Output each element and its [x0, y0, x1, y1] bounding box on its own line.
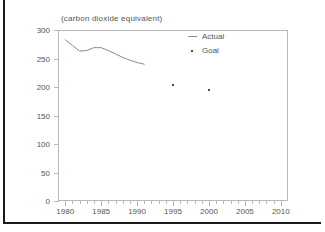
- x-axis-major-tick: [101, 201, 102, 206]
- x-axis-major-tick: [281, 201, 282, 206]
- x-axis-minor-tick: [130, 201, 131, 204]
- y-axis-tick-label: 150: [24, 111, 50, 120]
- x-axis-tick-label: 2010: [272, 207, 290, 216]
- series-actual-line: [65, 40, 144, 65]
- x-axis-minor-tick: [252, 201, 253, 204]
- x-axis-major-tick: [137, 201, 138, 206]
- outer-frame-bottom-edge: [3, 222, 321, 224]
- legend-label-actual: Actual: [202, 32, 224, 42]
- data-series-layer: [58, 30, 288, 201]
- x-axis-minor-tick: [116, 201, 117, 204]
- x-axis-minor-tick: [123, 201, 124, 204]
- x-axis-minor-tick: [166, 201, 167, 204]
- x-axis-tick-label: 1990: [128, 207, 146, 216]
- x-axis-minor-tick: [94, 201, 95, 204]
- x-axis-tick-label: 2005: [236, 207, 254, 216]
- x-axis-minor-tick: [223, 201, 224, 204]
- x-axis-major-tick: [209, 201, 210, 206]
- x-axis-minor-tick: [144, 201, 145, 204]
- x-axis-major-tick: [65, 201, 66, 206]
- outer-frame-left-edge: [3, 0, 5, 224]
- chart-page: (carbon dioxide equivalent) 050100150200…: [0, 0, 325, 232]
- y-axis-tick-label: 250: [24, 54, 50, 63]
- x-axis-minor-tick: [259, 201, 260, 204]
- legend-dot-swatch-icon: [191, 50, 193, 52]
- x-axis-minor-tick: [87, 201, 88, 204]
- x-axis-minor-tick: [72, 201, 73, 204]
- x-axis-major-tick: [245, 201, 246, 206]
- x-axis-minor-tick: [216, 201, 217, 204]
- x-axis-tick-label: 1980: [56, 207, 74, 216]
- y-axis-tick-label: 50: [24, 168, 50, 177]
- y-axis-tick-label: 0: [24, 197, 50, 206]
- x-axis-major-tick: [173, 201, 174, 206]
- x-axis-minor-tick: [151, 201, 152, 204]
- x-axis-minor-tick: [180, 201, 181, 204]
- chart-title: (carbon dioxide equivalent): [61, 14, 162, 23]
- x-axis-tick-label: 2000: [200, 207, 218, 216]
- x-axis-minor-tick: [108, 201, 109, 204]
- x-axis-tick-label: 1985: [92, 207, 110, 216]
- legend-label-goal: Goal: [202, 46, 219, 56]
- x-axis-minor-tick: [187, 201, 188, 204]
- y-axis-tick-label: 100: [24, 140, 50, 149]
- x-axis-minor-tick: [80, 201, 81, 204]
- x-axis-minor-tick: [202, 201, 203, 204]
- goal-data-point: [208, 89, 210, 91]
- y-axis-tick-label: 300: [24, 26, 50, 35]
- goal-data-point: [172, 84, 174, 86]
- x-axis-minor-tick: [231, 201, 232, 204]
- x-axis-minor-tick: [195, 201, 196, 204]
- x-axis-minor-tick: [159, 201, 160, 204]
- x-axis-minor-tick: [274, 201, 275, 204]
- x-axis-minor-tick: [266, 201, 267, 204]
- x-axis-tick-label: 1995: [164, 207, 182, 216]
- x-axis-minor-tick: [238, 201, 239, 204]
- y-axis-tick-label: 200: [24, 83, 50, 92]
- y-axis-tick: [54, 201, 59, 202]
- legend-line-swatch-icon: [188, 36, 197, 37]
